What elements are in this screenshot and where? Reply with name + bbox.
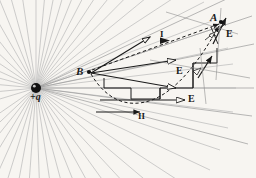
label-charge: +q — [30, 92, 41, 102]
construction-lines — [150, 8, 250, 104]
label-path-II: II — [138, 112, 145, 121]
label-path-I: I — [160, 30, 164, 39]
figure-canvas — [0, 0, 256, 178]
point-B-marker — [87, 70, 91, 74]
path-II-curve — [91, 26, 219, 103]
physics-figure: A B +q I II E E E — [0, 0, 256, 178]
label-E-at-A: E — [226, 29, 233, 39]
point-A-marker — [219, 20, 223, 24]
label-E-lower: E — [188, 94, 195, 104]
label-point-A: A — [210, 12, 217, 23]
charge-highlight — [33, 85, 36, 88]
label-point-B: B — [76, 66, 83, 77]
label-E-upper: E — [176, 66, 183, 76]
